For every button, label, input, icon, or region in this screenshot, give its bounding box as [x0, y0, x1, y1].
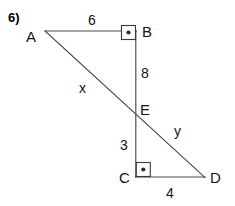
length-label-ec: 3 [120, 138, 128, 152]
segment-ad [45, 31, 205, 178]
length-label-be: 8 [141, 66, 149, 80]
vertex-label-c: C [119, 170, 130, 185]
right-angle-marker-b [122, 26, 136, 40]
length-label-ae: x [79, 81, 86, 95]
right-angle-dot-b [126, 30, 130, 34]
right-angle-dot-c [141, 167, 145, 171]
vertex-label-a: A [26, 29, 36, 44]
length-label-ab: 6 [88, 13, 96, 27]
vertex-label-b: B [142, 24, 152, 39]
length-label-ed: y [174, 124, 181, 138]
vertex-label-e: E [140, 102, 150, 117]
vertex-label-d: D [210, 170, 221, 185]
problem-number: 6) [8, 11, 20, 24]
geometry-figure: 6) A B E C D 6 8 3 4 x y [0, 0, 235, 206]
right-angle-marker-c [136, 163, 150, 177]
length-label-cd: 4 [166, 186, 174, 200]
